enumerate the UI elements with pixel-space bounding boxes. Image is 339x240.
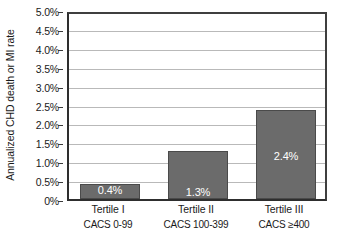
- y-tick-label-4.0: 4.0%: [36, 44, 59, 56]
- bar-tertile-2[interactable]: 1.3%: [168, 151, 228, 199]
- y-tick-mark-2.5: [58, 107, 63, 108]
- y-tick-label-3.0: 3.0%: [36, 82, 59, 94]
- y-axis-title-text: Annualized CHD death or MI rate: [4, 29, 16, 181]
- y-tick-mark-3.0: [58, 88, 63, 89]
- y-tick-label-2.5: 2.5%: [36, 101, 59, 113]
- bar-value-tertile-1: 0.4%: [98, 184, 122, 198]
- y-tick-mark-3.5: [58, 69, 63, 70]
- y-tick-label-0: 0%: [44, 195, 59, 207]
- category-name-tertile-1: Tertile I: [67, 203, 149, 216]
- y-tick-mark-2.0: [58, 125, 63, 126]
- bar-chart: Annualized CHD death or MI rate 5.0% 4.5…: [0, 0, 339, 240]
- x-axis-category-labels: Tertile I CACS 0-99 Tertile II CACS 100-…: [67, 203, 327, 240]
- category-group-tertile-2: Tertile II CACS 100-399: [155, 203, 237, 231]
- y-tick-label-4.5: 4.5%: [36, 25, 59, 37]
- bar-value-tertile-3: 2.4%: [274, 150, 298, 198]
- y-tick-mark-0.5: [58, 182, 63, 183]
- y-tick-label-1.5: 1.5%: [36, 138, 59, 150]
- y-tick-mark-4.0: [58, 50, 63, 51]
- y-tick-mark-4.5: [58, 31, 63, 32]
- y-axis-title: Annualized CHD death or MI rate: [0, 0, 20, 210]
- category-group-tertile-1: Tertile I CACS 0-99: [67, 203, 149, 231]
- bars-layer: 0.4% 1.3% 2.4%: [69, 14, 325, 199]
- y-tick-mark-5.0: [58, 12, 63, 13]
- y-tick-label-0.5: 0.5%: [36, 176, 59, 188]
- category-sublabel-tertile-1: CACS 0-99: [67, 218, 149, 231]
- y-tick-label-5.0: 5.0%: [36, 6, 59, 18]
- y-tick-label-1.0: 1.0%: [36, 157, 59, 169]
- bar-tertile-3[interactable]: 2.4%: [256, 110, 316, 199]
- category-name-tertile-3: Tertile III: [243, 203, 325, 216]
- y-axis-tick-labels: 5.0% 4.5% 4.0% 3.5% 3.0% 2.5% 2.0% 1.5% …: [18, 0, 63, 240]
- bar-tertile-1[interactable]: 0.4%: [80, 184, 140, 199]
- y-tick-mark-0: [58, 201, 63, 202]
- y-tick-label-2.0: 2.0%: [36, 119, 59, 131]
- category-group-tertile-3: Tertile III CACS ≥400: [243, 203, 325, 231]
- category-name-tertile-2: Tertile II: [155, 203, 237, 216]
- y-tick-mark-1.5: [58, 144, 63, 145]
- y-tick-label-3.5: 3.5%: [36, 63, 59, 75]
- category-sublabel-tertile-3: CACS ≥400: [243, 218, 325, 231]
- bar-value-tertile-2: 1.3%: [186, 186, 210, 198]
- y-tick-mark-1.0: [58, 163, 63, 164]
- plot-area: 0.4% 1.3% 2.4%: [67, 12, 327, 201]
- category-sublabel-tertile-2: CACS 100-399: [155, 218, 237, 231]
